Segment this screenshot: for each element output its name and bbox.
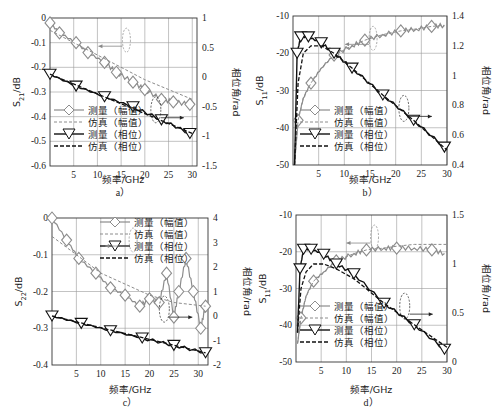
arrowhead-right-icon xyxy=(180,116,184,120)
y2-tick-label: 0.4 xyxy=(452,160,464,170)
diamond-marker-icon xyxy=(156,93,166,105)
arrowhead-left-icon xyxy=(105,244,109,248)
chart-caption: a） xyxy=(116,187,130,198)
annotation-ellipse-phase xyxy=(399,95,409,121)
diamond-marker-icon xyxy=(120,289,130,301)
x-tick-label: 5 xyxy=(319,366,324,376)
y-axis-label-sub: 11 xyxy=(264,289,272,297)
x-tick-label: 25 xyxy=(169,369,179,379)
y2-axis-label: 相位角/rad xyxy=(242,267,253,316)
chart-c: 0-0.1-0.2-0.3-0.443210-1-251015202530测量（… xyxy=(13,212,253,408)
y2-tick-label: 1.5 xyxy=(452,210,464,220)
y-tick-label: -0.2 xyxy=(33,287,48,297)
y2-tick-label: 1.4 xyxy=(452,11,464,21)
y-axis-label-sub: 21 xyxy=(18,93,26,101)
y2-tick-label: 0.5 xyxy=(452,308,464,318)
legend-label: 仿真（幅值） xyxy=(88,117,148,128)
x-axis-label: 频率/GHz xyxy=(109,384,152,395)
y2-tick-label: 0.8 xyxy=(452,100,464,110)
triangle-marker-icon xyxy=(99,92,111,102)
diamond-marker-icon xyxy=(145,293,155,305)
y2-tick-label: 0 xyxy=(452,357,457,367)
y2-tick-label: -1.5 xyxy=(202,161,217,171)
x-tick-label: 20 xyxy=(391,169,401,179)
y2-tick-label: 3 xyxy=(213,238,218,248)
legend-label: 测量（相位） xyxy=(334,129,394,140)
x-tick-label: 30 xyxy=(442,366,452,376)
y2-tick-label: -1 xyxy=(202,131,210,141)
y-axis-label: S21/dB xyxy=(11,77,26,107)
diamond-marker-icon xyxy=(392,242,402,254)
diamond-marker-icon xyxy=(188,286,198,298)
y-axis-label-sub: 11 xyxy=(261,91,269,99)
x-tick-label: 10 xyxy=(96,369,106,379)
y-tick-label: -0.1 xyxy=(31,38,46,48)
annotation-ellipse-magnitude xyxy=(122,28,130,52)
y-tick-label: -20 xyxy=(276,48,289,58)
legend-label: 仿真（幅值） xyxy=(334,313,394,324)
chart-caption: c） xyxy=(123,397,137,408)
x-axis-label: 频率/GHz xyxy=(102,174,145,185)
diamond-marker-icon xyxy=(168,96,178,108)
x-tick-label: 15 xyxy=(120,369,130,379)
x-tick-label: 25 xyxy=(164,170,174,180)
y-tick-label: -50 xyxy=(276,160,289,170)
y-tick-label: -0.2 xyxy=(31,62,46,72)
y-tick-label: -30 xyxy=(276,86,289,96)
legend-diamond-icon xyxy=(64,105,74,115)
legend-diamond-icon xyxy=(110,217,120,227)
y-tick-label: -30 xyxy=(279,284,292,294)
y2-tick-label: 1.2 xyxy=(452,41,464,51)
y2-tick-label: 0 xyxy=(202,72,207,82)
diamond-marker-icon xyxy=(47,212,57,224)
y2-axis-label: 相位角/rad xyxy=(231,68,242,117)
y2-tick-label: 0.5 xyxy=(202,43,214,53)
legend-label: 测量（幅值） xyxy=(334,105,394,116)
y2-tick-label: 0.6 xyxy=(452,130,464,140)
legend-label: 测量（幅值） xyxy=(334,301,394,312)
diamond-marker-icon xyxy=(185,98,195,110)
triangle-marker-icon xyxy=(184,128,196,138)
x-tick-label: 30 xyxy=(188,170,198,180)
x-tick-label: 5 xyxy=(74,369,79,379)
y2-axis-label: 相位角/rad xyxy=(481,264,492,313)
x-tick-label: 20 xyxy=(145,369,155,379)
chart-a: 0-0.1-0.2-0.3-0.4-0.5-0.610.50-0.5-1-1.5… xyxy=(11,13,242,198)
y2-tick-label: -0.5 xyxy=(202,102,217,112)
y-tick-label: -0.6 xyxy=(31,161,46,171)
triangle-marker-icon xyxy=(348,269,360,279)
diamond-marker-icon xyxy=(306,77,316,89)
y2-tick-label: 0 xyxy=(213,311,218,321)
legend-label: 仿真（相位） xyxy=(88,141,148,152)
legend-label: 测量（相位） xyxy=(334,325,394,336)
y-axis-label-unit: /dB xyxy=(254,75,265,91)
y2-tick-label: 1 xyxy=(452,259,457,269)
y-tick-label: -0.1 xyxy=(33,250,48,260)
y-tick-label: -0.5 xyxy=(31,136,46,146)
y2-tick-label: 4 xyxy=(213,213,218,223)
y-tick-label: -40 xyxy=(276,123,289,133)
y-axis-label-unit: /dB xyxy=(11,77,22,93)
x-tick-label: 5 xyxy=(71,170,76,180)
y-tick-label: -50 xyxy=(279,357,292,367)
diamond-marker-icon xyxy=(162,267,172,279)
y-axis-label-sub: 22 xyxy=(20,292,28,300)
figure-canvas: 0-0.1-0.2-0.3-0.4-0.5-0.610.50-0.5-1-1.5… xyxy=(0,0,495,414)
x-tick-label: 5 xyxy=(316,169,321,179)
x-tick-label: 15 xyxy=(367,366,377,376)
y-tick-label: -0.4 xyxy=(31,112,46,122)
y-tick-label: -0.3 xyxy=(33,323,48,333)
chart-b: -10-20-30-40-501.41.210.80.60.4510152025… xyxy=(254,11,492,198)
arrowhead-right-icon xyxy=(188,315,192,319)
legend-label: 仿真（相位） xyxy=(134,253,194,264)
y-axis-label: S22/dB xyxy=(13,276,28,306)
x-tick-label: 20 xyxy=(392,366,402,376)
legend-label: 测量（幅值） xyxy=(88,105,148,116)
arrowhead-right-icon xyxy=(428,114,432,118)
chart-caption: b） xyxy=(363,187,378,198)
y-tick-label: -0.3 xyxy=(31,87,46,97)
arrowhead-right-icon xyxy=(429,312,433,316)
y-axis-label: S11/dB xyxy=(257,273,272,303)
y-tick-label: -20 xyxy=(279,247,292,257)
diamond-marker-icon xyxy=(174,286,184,298)
